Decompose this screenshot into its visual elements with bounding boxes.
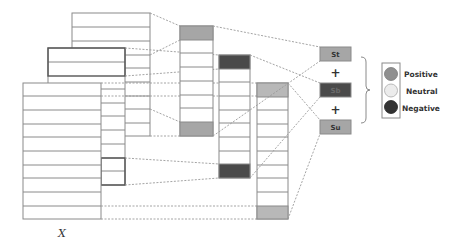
column-2 <box>219 55 250 178</box>
input-stack-front <box>23 83 101 219</box>
input-label: X <box>57 227 67 240</box>
column-2-top-cell <box>219 55 250 69</box>
legend-negative-label: Negative <box>402 104 440 113</box>
output-st-label: St <box>331 51 340 59</box>
output-sb: Sb <box>320 83 351 97</box>
legend: Positive Neutral Negative <box>382 63 440 118</box>
output-su-label: Su <box>330 124 340 132</box>
plus-operator-1: + <box>330 66 340 80</box>
column-2-bottom-cell <box>219 164 250 178</box>
column-1-top-cell <box>180 26 213 40</box>
curly-brace-icon <box>361 57 370 123</box>
column-1 <box>180 26 213 136</box>
column-3-top-cell <box>257 83 288 97</box>
neutral-swatch-icon <box>385 84 398 97</box>
output-st: St <box>320 47 351 61</box>
architecture-diagram: St + Sb + Su Positive Neutral Negative X <box>0 0 456 246</box>
plus-operator-2: + <box>330 103 340 117</box>
output-su: Su <box>320 120 351 134</box>
column-3-bottom-cell <box>257 206 288 219</box>
positive-swatch-icon <box>385 68 398 81</box>
legend-positive-label: Positive <box>404 70 438 79</box>
column-3 <box>257 83 288 219</box>
negative-swatch-icon <box>385 101 398 114</box>
column-1-bottom-cell <box>180 122 213 136</box>
output-sb-label: Sb <box>330 87 340 95</box>
legend-neutral-label: Neutral <box>406 87 438 96</box>
